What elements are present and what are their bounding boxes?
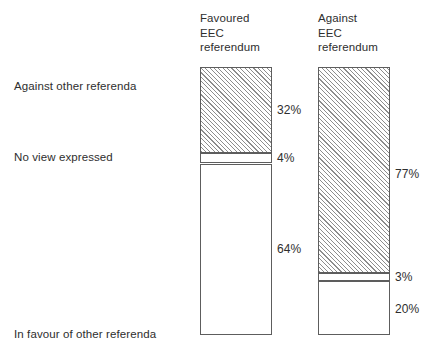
value-label-against-against: 77% xyxy=(395,168,419,180)
value-label-favoured-infavour: 64% xyxy=(277,243,301,255)
column-header-against: Against EEC referendum xyxy=(318,11,378,55)
value-label-against-noview: 3% xyxy=(395,271,413,283)
bar-segment-in-favour-other-referenda xyxy=(318,281,390,335)
value-label-favoured-noview: 4% xyxy=(277,152,295,164)
bar-segment-no-view-expressed xyxy=(200,153,272,164)
bar-favoured-eec-referendum xyxy=(200,67,272,335)
value-label-against-infavour: 20% xyxy=(395,303,419,315)
column-header-favoured: Favoured EEC referendum xyxy=(200,11,260,55)
stacked-bar-chart: Favoured EEC referendum Against EEC refe… xyxy=(0,0,431,351)
row-label-against-other-referenda: Against other referenda xyxy=(14,79,137,93)
bar-segment-against-other-referenda xyxy=(318,67,390,273)
value-label-favoured-against: 32% xyxy=(277,104,301,116)
bar-segment-against-other-referenda xyxy=(200,67,272,153)
bar-against-eec-referendum xyxy=(318,67,390,335)
row-label-no-view-expressed: No view expressed xyxy=(14,150,113,164)
bar-segment-no-view-expressed xyxy=(318,273,390,281)
bar-segment-in-favour-other-referenda xyxy=(200,164,272,336)
row-label-in-favour-other-referenda: In favour of other referenda xyxy=(14,327,156,341)
